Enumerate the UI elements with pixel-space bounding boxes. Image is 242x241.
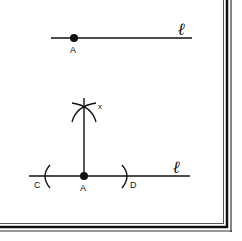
top-diagram: A ℓ bbox=[51, 19, 192, 55]
label-c: C bbox=[34, 180, 41, 190]
label-x: x bbox=[98, 102, 102, 111]
bottom-diagram: x C D A ℓ bbox=[29, 98, 190, 193]
point-a-bottom bbox=[80, 172, 88, 180]
label-a-top: A bbox=[70, 45, 76, 55]
label-d: D bbox=[130, 180, 137, 190]
label-l-top: ℓ bbox=[178, 19, 185, 39]
label-l-bottom: ℓ bbox=[173, 157, 180, 177]
point-a-top bbox=[70, 34, 78, 42]
construction-diagram: A ℓ x C D A ℓ bbox=[0, 0, 242, 241]
frame-border bbox=[0, 0, 232, 232]
label-a-bottom: A bbox=[80, 183, 86, 193]
